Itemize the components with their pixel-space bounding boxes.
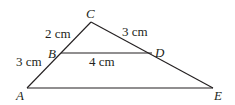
point-label-D: D [154,45,165,60]
point-label-E: E [213,88,222,103]
triangle-diagram: C B D A E 2 cm 3 cm 3 cm 4 cm [0,0,235,105]
point-label-C: C [86,6,95,21]
measure-CB: 2 cm [45,26,71,41]
measure-BA: 3 cm [16,54,42,69]
point-label-A: A [15,88,24,103]
measure-BD: 4 cm [89,54,115,69]
point-label-B: B [48,46,56,61]
measure-CD: 3 cm [122,24,148,39]
